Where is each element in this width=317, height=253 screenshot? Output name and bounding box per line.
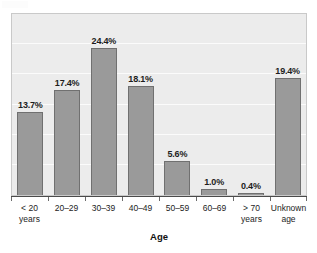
bar-slot: 24.4%: [86, 14, 123, 195]
x-axis-tick: [48, 197, 85, 201]
x-axis-tick-label: Unknownage: [270, 203, 307, 225]
x-axis-tick-label-line: < 20: [11, 203, 48, 214]
bar[interactable]: [201, 189, 227, 195]
bar-value-label: 13.7%: [18, 100, 43, 110]
bar-slot: 17.4%: [49, 14, 86, 195]
bar[interactable]: [238, 193, 264, 195]
x-axis-tick: [122, 197, 159, 201]
x-axis-tick-label-line: 20–29: [48, 203, 85, 214]
x-axis-tick-label-line: years: [11, 214, 48, 225]
bar-slot: 1.0%: [196, 14, 233, 195]
x-axis-tick: [85, 197, 122, 201]
bar-slot: 18.1%: [122, 14, 159, 195]
plot-area: 13.7%17.4%24.4%18.1%5.6%1.0%0.4%19.4%: [11, 13, 307, 196]
x-axis-tick-label-line: 40–49: [122, 203, 159, 214]
x-axis-tick-label-line: 30–39: [85, 203, 122, 214]
bar[interactable]: [275, 78, 301, 195]
x-axis-tick-label: 20–29: [48, 203, 85, 225]
bar[interactable]: [54, 90, 80, 195]
bar-value-label: 18.1%: [128, 74, 153, 84]
x-axis-tick-label: 40–49: [122, 203, 159, 225]
bar[interactable]: [17, 112, 43, 195]
x-axis-tick-label-line: > 70: [233, 203, 270, 214]
bar[interactable]: [164, 161, 190, 195]
bar-value-label: 0.4%: [241, 181, 261, 191]
x-axis-tick-label-line: 60–69: [196, 203, 233, 214]
bar-slot: 13.7%: [12, 14, 49, 195]
x-axis-tick: [159, 197, 196, 201]
bar[interactable]: [128, 86, 154, 195]
bar[interactable]: [91, 48, 117, 195]
bars-group: 13.7%17.4%24.4%18.1%5.6%1.0%0.4%19.4%: [12, 14, 306, 195]
bar-slot: 19.4%: [269, 14, 306, 195]
scan-artifact: [2, 1, 28, 8]
x-axis-tick-labels: < 20years20–2930–3940–4950–5960–69> 70ye…: [11, 203, 307, 225]
x-axis-tick-label: 60–69: [196, 203, 233, 225]
x-axis-tick-label: > 70years: [233, 203, 270, 225]
x-axis-tick-label-line: years: [233, 214, 270, 225]
bar-value-label: 19.4%: [275, 66, 300, 76]
x-axis-tick-label-line: Unknown: [270, 203, 307, 214]
x-axis-tick-label-line: 50–59: [159, 203, 196, 214]
x-axis-title: Age: [11, 231, 307, 242]
x-axis-tick: [11, 197, 48, 201]
x-axis-tick-label-line: age: [270, 214, 307, 225]
x-axis-ticks: [11, 197, 307, 201]
bar-value-label: 1.0%: [204, 177, 224, 187]
x-axis-tick: [196, 197, 233, 201]
x-axis-tick: [233, 197, 270, 201]
bar-value-label: 17.4%: [55, 78, 80, 88]
figure-bar-chart-age-distribution: 13.7%17.4%24.4%18.1%5.6%1.0%0.4%19.4% < …: [0, 0, 317, 253]
x-axis-tick-label: 50–59: [159, 203, 196, 225]
x-axis-tick: [270, 197, 307, 201]
bar-value-label: 24.4%: [92, 36, 117, 46]
x-axis-tick-label: 30–39: [85, 203, 122, 225]
bar-slot: 0.4%: [233, 14, 270, 195]
bar-value-label: 5.6%: [168, 149, 188, 159]
bar-slot: 5.6%: [159, 14, 196, 195]
x-axis-tick-label: < 20years: [11, 203, 48, 225]
